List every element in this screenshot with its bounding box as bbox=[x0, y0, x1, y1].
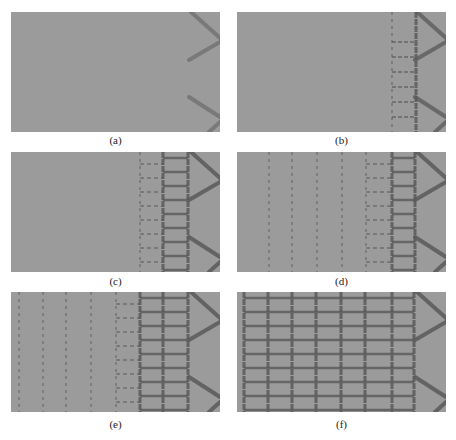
panel-d bbox=[237, 152, 446, 272]
panel-f-graphic bbox=[237, 292, 446, 412]
panel-c bbox=[11, 152, 220, 272]
caption-d: (d) bbox=[237, 275, 446, 287]
panel-f bbox=[237, 292, 446, 412]
caption-f: (f) bbox=[237, 418, 446, 430]
panel-b-graphic bbox=[237, 12, 446, 132]
panel-a-graphic bbox=[11, 12, 220, 132]
panel-e-graphic bbox=[11, 292, 220, 412]
caption-a: (a) bbox=[11, 134, 220, 146]
panel-a bbox=[11, 12, 220, 132]
panel-d-graphic bbox=[237, 152, 446, 272]
caption-b: (b) bbox=[237, 134, 446, 146]
caption-c: (c) bbox=[11, 275, 220, 287]
caption-e: (e) bbox=[11, 418, 220, 430]
panel-b bbox=[237, 12, 446, 132]
panel-c-graphic bbox=[11, 152, 220, 272]
panel-e bbox=[11, 292, 220, 412]
